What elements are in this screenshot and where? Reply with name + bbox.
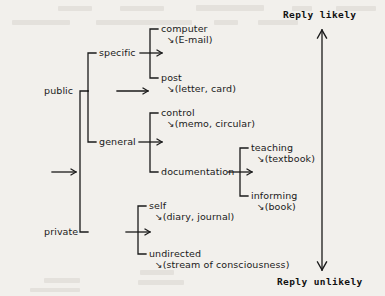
- diagram-canvas: public private specific general computer…: [0, 0, 385, 296]
- node-self-label: self: [149, 200, 166, 211]
- node-public: public: [44, 85, 73, 96]
- node-computer-gloss: ↘(E-mail): [161, 34, 213, 46]
- node-private-label: private: [44, 226, 78, 237]
- node-public-label: public: [44, 85, 73, 96]
- node-self: self ↘(diary, journal): [149, 200, 234, 223]
- node-control-label: control: [161, 107, 195, 118]
- branch-glyph-icon: ↘: [167, 119, 175, 129]
- node-post: post ↘(letter, card): [161, 72, 236, 95]
- node-general-label: general: [99, 136, 136, 147]
- node-control: control ↘(memo, circular): [161, 107, 255, 130]
- node-post-gloss: ↘(letter, card): [161, 83, 236, 95]
- node-undirected: undirected ↘(stream of consciousness): [149, 248, 289, 271]
- node-undirected-label: undirected: [149, 248, 201, 259]
- node-computer: computer ↘(E-mail): [161, 23, 213, 46]
- node-post-label: post: [161, 72, 182, 83]
- branch-glyph-icon: ↘: [155, 212, 163, 222]
- node-informing: informing ↘(book): [251, 190, 297, 213]
- node-teaching: teaching ↘(textbook): [251, 142, 315, 165]
- branch-glyph-icon: ↘: [167, 35, 175, 45]
- node-self-gloss: ↘(diary, journal): [149, 211, 234, 223]
- node-documentation-label: documentation: [161, 166, 234, 177]
- branch-glyph-icon: ↘: [167, 84, 175, 94]
- branch-glyph-icon: ↘: [257, 154, 265, 164]
- branch-glyph-icon: ↘: [257, 202, 265, 212]
- node-informing-gloss: ↘(book): [251, 201, 297, 213]
- node-informing-label: informing: [251, 190, 297, 201]
- node-specific-label: specific: [99, 47, 136, 58]
- node-general: general: [99, 136, 136, 147]
- node-teaching-gloss: ↘(textbook): [251, 153, 315, 165]
- node-teaching-label: teaching: [251, 142, 293, 153]
- node-undirected-gloss: ↘(stream of consciousness): [149, 259, 289, 271]
- scale-label-top: Reply likely: [283, 9, 356, 20]
- scale-label-bottom: Reply unlikely: [277, 276, 363, 287]
- node-documentation: documentation: [161, 166, 234, 177]
- node-computer-label: computer: [161, 23, 208, 34]
- node-private: private: [44, 226, 78, 237]
- branch-glyph-icon: ↘: [155, 260, 163, 270]
- node-specific: specific: [99, 47, 136, 58]
- node-control-gloss: ↘(memo, circular): [161, 118, 255, 130]
